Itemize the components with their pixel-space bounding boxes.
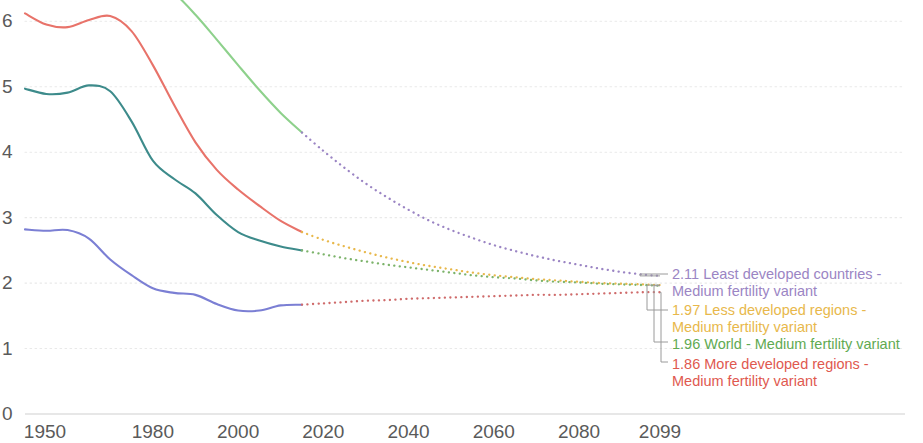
series-3-projection [302, 292, 660, 304]
x-tick-label-2080: 2080 [549, 422, 609, 441]
series-2-historical [25, 85, 302, 250]
fertility-rate-line-chart: 0123456 19501980200020202040206020802099… [0, 0, 923, 443]
y-tick-label-5: 5 [2, 77, 13, 96]
grid-lines [25, 21, 905, 348]
y-tick-label-6: 6 [2, 11, 13, 30]
series-0-historical [25, 0, 302, 133]
x-tick-label-2060: 2060 [464, 422, 524, 441]
legend-entry-1[interactable]: 1.97 Less developed regions -Medium fert… [672, 302, 866, 335]
legend-entry-2-line1: 1.96 World - Medium fertility variant [672, 336, 900, 353]
legend-entry-3[interactable]: 1.86 More developed regions -Medium fert… [672, 356, 869, 389]
legend-entry-1-line2: Medium fertility variant [672, 319, 866, 336]
series-2 [25, 85, 660, 285]
series-2-projection [302, 250, 660, 285]
y-tick-label-0: 0 [2, 404, 13, 423]
series-0-projection [302, 133, 660, 276]
y-tick-label-3: 3 [2, 208, 13, 227]
series-1 [25, 13, 660, 285]
series-0 [25, 0, 660, 276]
legend-entry-0-line1: 2.11 Least developed countries - [672, 266, 881, 283]
x-tick-label-1980: 1980 [123, 422, 183, 441]
x-tick-label-2020: 2020 [293, 422, 353, 441]
legend-entry-3-line1: 1.86 More developed regions - [672, 356, 869, 373]
legend-entry-1-line1: 1.97 Less developed regions - [672, 302, 866, 319]
legend-entry-2[interactable]: 1.96 World - Medium fertility variant [672, 336, 900, 353]
legend-entry-3-line2: Medium fertility variant [672, 373, 869, 390]
leader-line-3 [660, 292, 668, 362]
legend-entry-0-line2: Medium fertility variant [672, 283, 881, 300]
leader-line-1 [647, 285, 668, 310]
legend-entry-0[interactable]: 2.11 Least developed countries -Medium f… [672, 266, 881, 299]
series-1-historical [25, 13, 302, 232]
x-tick-label-2000: 2000 [208, 422, 268, 441]
series-3 [25, 229, 660, 311]
x-tick-label-2099: 2099 [630, 422, 690, 441]
leader-line-0 [640, 274, 668, 276]
y-tick-label-4: 4 [2, 142, 13, 161]
y-tick-label-2: 2 [2, 273, 13, 292]
legend-leader-lines [640, 274, 668, 362]
y-tick-label-1: 1 [2, 339, 13, 358]
x-tick-label-1950: 1950 [15, 422, 75, 441]
x-tick-label-2040: 2040 [379, 422, 439, 441]
